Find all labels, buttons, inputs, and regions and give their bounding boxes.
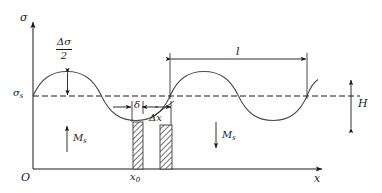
amplitude-numerator: Δσ <box>56 37 72 48</box>
yield-stress-label: σs <box>13 88 23 100</box>
yield-stress-subscript: s <box>20 92 24 100</box>
height-label: H <box>358 98 368 109</box>
moment-left-label: Ms <box>73 133 87 145</box>
origin-label: O <box>21 172 30 183</box>
x-axis-label: x <box>314 173 320 184</box>
moment-right-symbol: M <box>222 129 232 140</box>
yield-stress-symbol: σ <box>13 87 20 98</box>
moment-right-subscript: s <box>232 134 236 142</box>
wavelength-label: l <box>236 46 240 57</box>
stress-wave-curve <box>33 72 318 121</box>
amplitude-label: Δσ 2 <box>56 37 72 61</box>
moment-left-subscript: s <box>83 137 87 145</box>
moment-left-symbol: M <box>73 132 83 143</box>
delta-label: δ <box>134 100 140 110</box>
y-axis-label: σ <box>20 12 28 23</box>
stress-distribution-figure: σ x O σs Δσ 2 l H δ Δx x0 Ms Ms <box>0 0 382 193</box>
hatched-bar-left <box>133 122 143 169</box>
delta-dimension <box>113 101 171 125</box>
amplitude-denominator: 2 <box>56 51 72 62</box>
moment-right-label: Ms <box>222 130 236 142</box>
diagram-canvas <box>0 0 382 193</box>
position-x0-label: x0 <box>130 172 140 184</box>
wavelength-dimension <box>170 53 307 99</box>
position-x0-subscript: 0 <box>136 176 140 184</box>
delta-x-label: Δx <box>149 113 162 123</box>
hatched-bar-right <box>160 125 172 169</box>
